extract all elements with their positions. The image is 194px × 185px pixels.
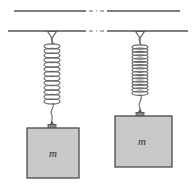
spring-left	[44, 44, 60, 104]
spring-mass-figure: m	[0, 0, 194, 185]
figure-canvas: m	[0, 0, 194, 185]
spring-right	[132, 45, 148, 96]
spring-bottom-lead-left	[51, 103, 54, 124]
mass-label-right: m	[138, 135, 146, 147]
spring-mass-system-left: m	[27, 32, 79, 179]
spring-mass-system-right: m	[115, 32, 172, 168]
mass-label-left: m	[49, 147, 57, 159]
